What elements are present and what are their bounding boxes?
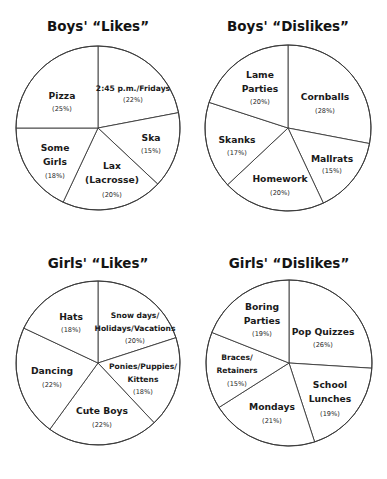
slice-percent-label: (20%) bbox=[250, 98, 270, 106]
slice-label-text: Boring bbox=[245, 301, 279, 312]
pie-chart-boys-dislikes: Boys' “Dislikes” Cornballs(28%)Mallrats(… bbox=[205, 18, 371, 211]
slice-percent-label: (15%) bbox=[227, 380, 247, 388]
slice-label-text: Hats bbox=[59, 311, 83, 322]
pie-chart-boys-likes: Boys' “Likes” 2:45 p.m./Fridays(22%)Ska(… bbox=[16, 18, 180, 210]
slice-label-text: Parties bbox=[244, 315, 281, 326]
slice-percent-label: (21%) bbox=[262, 417, 282, 425]
slice-percent-label: (22%) bbox=[42, 381, 62, 389]
slice-percent-label: (15%) bbox=[322, 167, 342, 175]
slices bbox=[16, 46, 180, 210]
slice-percent-label: (22%) bbox=[123, 96, 143, 104]
slice-label-text: Dancing bbox=[31, 365, 73, 376]
slice-label-text: Lame bbox=[246, 69, 274, 80]
pie-chart-girls-dislikes: Girls' “Dislikes” Pop Quizzes(26%)School… bbox=[206, 255, 372, 446]
slice-percent-label: (25%) bbox=[52, 105, 72, 113]
slice-percent-label: (20%) bbox=[270, 189, 290, 197]
pie-slice-pizza bbox=[16, 46, 98, 128]
slice-percent-label: (26%) bbox=[313, 341, 333, 349]
slice-label-text: Lax bbox=[103, 160, 121, 171]
slice-label-text: Pop Quizzes bbox=[292, 326, 355, 337]
chart-title: Girls' “Likes” bbox=[48, 255, 149, 271]
slice-label-text: 2:45 p.m./Fridays bbox=[96, 84, 171, 93]
slice-label-text: Kittens bbox=[128, 375, 159, 384]
slice-label-text: Cute Boys bbox=[76, 405, 128, 416]
chart-title: Boys' “Likes” bbox=[47, 18, 149, 34]
pie-chart-girls-likes: Girls' “Likes” Snow days/Holidays/Vacati… bbox=[16, 255, 180, 445]
slices bbox=[206, 280, 372, 446]
slice-percent-label: (15%) bbox=[141, 147, 161, 155]
slice-label-text: Cornballs bbox=[301, 91, 350, 102]
slice-label-text: Skanks bbox=[218, 134, 256, 145]
slice-percent-label: (19%) bbox=[252, 330, 272, 338]
slices bbox=[205, 45, 371, 211]
slice-percent-label: (28%) bbox=[315, 107, 335, 115]
slice-label-text: Mallrats bbox=[311, 153, 354, 164]
slice-label-text: Ponies/Puppies/ bbox=[109, 362, 177, 371]
slice-label-text: Parties bbox=[242, 83, 279, 94]
slice-label-text: School bbox=[313, 379, 347, 390]
slice-percent-label: (20%) bbox=[102, 191, 122, 199]
chart-title: Girls' “Dislikes” bbox=[229, 255, 350, 271]
slice-percent-label: (20%) bbox=[125, 337, 145, 345]
slice-label-text: Girls bbox=[43, 156, 67, 167]
slice-label-text: Pizza bbox=[49, 90, 76, 101]
slice-percent-label: (22%) bbox=[92, 421, 112, 429]
slice-label-text: Some bbox=[41, 142, 70, 153]
slice-label-text: Lunches bbox=[309, 393, 352, 404]
slice-label-text: Retainers bbox=[216, 366, 258, 375]
slice-label-text: Holidays/Vacations bbox=[95, 324, 176, 333]
pie-slice-pop-quizzes bbox=[289, 280, 372, 368]
pie-charts-figure: Boys' “Likes” 2:45 p.m./Fridays(22%)Ska(… bbox=[0, 0, 387, 479]
slice-label-text: Mondays bbox=[249, 401, 295, 412]
slice-label-text: (Lacrosse) bbox=[85, 174, 139, 185]
slice-label-text: Homework bbox=[252, 173, 308, 184]
slice-percent-label: (18%) bbox=[61, 326, 81, 334]
slice-percent-label: (18%) bbox=[45, 172, 65, 180]
slice-percent-label: (18%) bbox=[133, 388, 153, 396]
slice-percent-label: (17%) bbox=[227, 149, 247, 157]
slice-label-text: Braces/ bbox=[221, 353, 253, 362]
slice-percent-label: (19%) bbox=[320, 410, 340, 418]
slice-label-text: Ska bbox=[142, 132, 161, 143]
chart-title: Boys' “Dislikes” bbox=[227, 18, 349, 34]
slice-label-text: Snow days/ bbox=[111, 311, 160, 320]
